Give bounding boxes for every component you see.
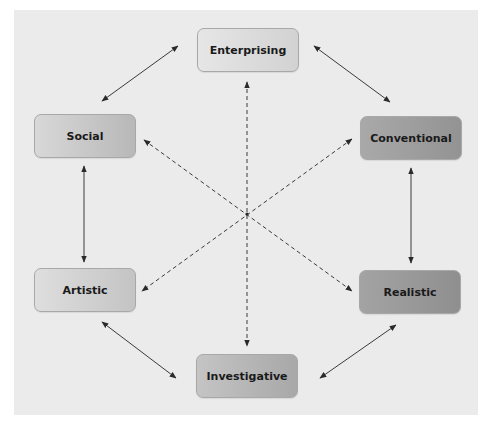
arrow-enterprising-conventional: [314, 46, 390, 102]
node-realistic: Realistic: [359, 270, 461, 314]
node-label: Artistic: [62, 284, 107, 297]
diagram-canvas: Enterprising Social Conventional Artisti…: [0, 0, 492, 428]
arrow-artistic-investigative: [102, 322, 176, 378]
node-enterprising: Enterprising: [197, 28, 299, 72]
center-point: [245, 212, 248, 215]
node-label: Investigative: [206, 370, 287, 383]
node-label: Social: [67, 130, 104, 143]
arrow-investigative-realistic: [320, 325, 396, 378]
node-investigative: Investigative: [196, 354, 298, 398]
arrow-social-enterprising: [102, 46, 178, 101]
node-conventional: Conventional: [360, 116, 462, 160]
dashed-arrow-social-realistic: [144, 140, 352, 291]
node-artistic: Artistic: [34, 268, 136, 312]
node-social: Social: [34, 114, 136, 158]
node-label: Enterprising: [210, 44, 287, 57]
node-label: Realistic: [384, 286, 437, 299]
node-label: Conventional: [370, 132, 452, 145]
